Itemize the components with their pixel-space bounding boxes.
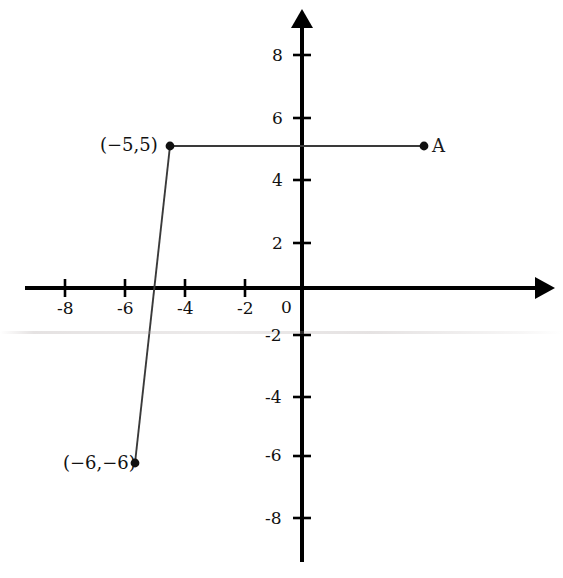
x-tick-label--6: -6: [117, 300, 134, 317]
slanted-segment: [135, 146, 170, 463]
y-tick-label--8: -8: [265, 510, 282, 527]
y-tick-label--4: -4: [265, 389, 282, 406]
plot-svg: [0, 0, 563, 578]
vertex-bottom-left-label: (−6,−6): [63, 454, 136, 472]
y-tick-label-4: 4: [272, 172, 283, 189]
y-tick-label-2: 2: [272, 235, 283, 252]
x-axis: [25, 277, 555, 299]
point-markers: [131, 142, 429, 468]
y-tick-label--2: -2: [265, 327, 282, 344]
point-a-label: A: [432, 137, 445, 155]
coordinate-plane-figure: -8 -6 -4 -2 0 8 6 4 2 -2 -4 -6 -8 (−5,5)…: [0, 0, 563, 578]
x-tick-label--8: -8: [57, 300, 74, 317]
x-tick-label--4: -4: [177, 300, 194, 317]
y-tick-label--6: -6: [265, 447, 282, 464]
vertex-top-left-label: (−5,5): [100, 136, 158, 154]
vertex-top-left-dot: [166, 142, 175, 151]
y-axis: [291, 9, 313, 562]
y-tick-label-6: 6: [272, 110, 283, 127]
point-a-dot: [420, 142, 429, 151]
y-tick-label-8: 8: [272, 47, 283, 64]
x-tick-label--2: -2: [237, 300, 254, 317]
x-tick-label-0: 0: [281, 299, 292, 316]
